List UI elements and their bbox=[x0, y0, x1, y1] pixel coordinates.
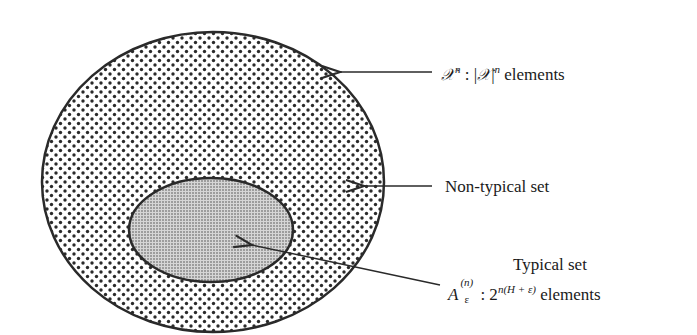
typical-set-symbol: A bbox=[448, 285, 458, 304]
outer-set-label: 𝒳n : |𝒳|n elements bbox=[441, 64, 565, 83]
typical-set-ellipse bbox=[129, 178, 293, 282]
typical-set-formula: A(n)ε : 2n(H + ε) elements bbox=[448, 284, 601, 303]
exponent: n(H + ε) bbox=[498, 283, 536, 295]
typical-set-title: Typical set bbox=[513, 256, 587, 273]
script-x-symbol: 𝒳 bbox=[441, 65, 455, 84]
non-typical-set-label: Non-typical set bbox=[445, 178, 549, 195]
